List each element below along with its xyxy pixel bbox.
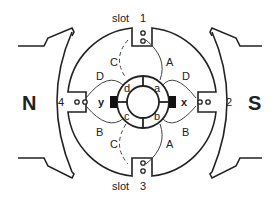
- segment-b: b: [154, 110, 160, 122]
- slot1-number: 1: [140, 12, 146, 24]
- brush-y: [110, 96, 117, 108]
- coil-label-b-right: B: [182, 126, 189, 138]
- coil-label-c-bottom: C: [110, 138, 118, 150]
- brush-x: [169, 96, 176, 108]
- segment-d: d: [124, 82, 130, 94]
- segment-a: a: [154, 82, 161, 94]
- brush-y-label: y: [98, 96, 105, 108]
- brush-x-label: x: [181, 96, 188, 108]
- pole-label-s: S: [248, 92, 261, 114]
- coil-label-d-right: D: [182, 70, 190, 82]
- coil-label-a-bottom: A: [166, 138, 174, 150]
- slot3-number: 3: [140, 180, 146, 192]
- segment-c: c: [124, 110, 130, 122]
- coil-label-d-left: D: [96, 70, 104, 82]
- slot4-number: 4: [58, 96, 64, 108]
- pole-label-n: N: [22, 92, 36, 114]
- slot3-label: slot: [112, 180, 129, 192]
- coil-label-b-left: B: [96, 126, 103, 138]
- coil-label-a-top: A: [166, 56, 174, 68]
- slot1-label: slot: [112, 12, 129, 24]
- coil-label-c-top: C: [110, 56, 118, 68]
- slot2-number: 2: [226, 96, 232, 108]
- dc-motor-diagram: N S slot 1 2 slot 3 4 y x a b c d C A D …: [0, 0, 280, 204]
